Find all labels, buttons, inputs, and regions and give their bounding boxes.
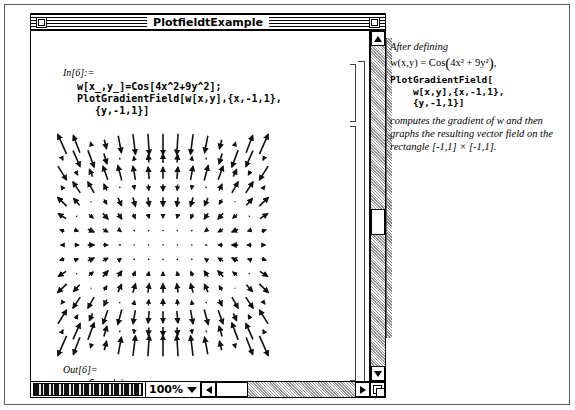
horizontal-scroll-thumb[interactable] [216,382,248,397]
side-panel-explanation: computes the gradient of w and then grap… [390,114,566,153]
scroll-left-arrow-icon[interactable] [201,382,216,397]
horizontal-scrollbar[interactable] [201,382,385,397]
input-cell-code[interactable]: w[x_,y_]=Cos[4x^2+9y^2]; PlotGradientFie… [77,81,282,117]
gradient-vector-field-plot[interactable] [41,129,281,361]
side-panel-intro: After defining [390,40,566,53]
formula-tail: , [494,57,497,68]
cell-bracket-group [349,31,367,381]
resize-grow-icon[interactable] [370,382,385,397]
scroll-right-arrow-icon[interactable] [355,382,370,397]
zoom-level-select[interactable]: 100% [145,382,201,397]
formula-lhs: w(x,y) = Cos [390,57,445,68]
notebook-window: PlotfieldtExample In[6]:= w[x_,y_]=Cos[4… [30,13,386,398]
side-panel-code: PlotGradientField[ w[x,y],{x,-1,1}, {y,-… [390,74,566,109]
vector-field-svg [41,129,281,361]
scroll-up-arrow-icon[interactable] [371,31,385,46]
output-cell-label: Out[6]= [63,364,98,375]
chevron-down-icon[interactable] [187,387,197,393]
input-cell-label: In[6]:= [63,67,94,78]
vertical-scrollbar[interactable] [370,31,385,381]
side-explanation-panel: After defining w(x,y) = Cos(4x² + 9y²), … [390,40,566,156]
zoom-box-icon[interactable] [369,17,380,28]
vertical-scroll-track[interactable] [371,46,385,366]
scroll-down-arrow-icon[interactable] [371,366,385,381]
window-titlebar[interactable]: PlotfieldtExample [31,14,385,31]
window-bottom-bar: 100% [31,381,385,397]
close-box-icon[interactable] [36,17,47,28]
side-panel-formula: w(x,y) = Cos(4x² + 9y²), [390,56,566,70]
notebook-document-area[interactable]: In[6]:= w[x_,y_]=Cos[4x^2+9y^2]; PlotGra… [31,31,370,381]
window-title: PlotfieldtExample [147,16,269,29]
status-strip [33,383,143,396]
zoom-level-value: 100% [149,383,183,396]
cell-bracket-input[interactable] [350,64,356,122]
formula-inner: 4x² + 9y² [450,57,488,68]
vertical-scroll-thumb[interactable] [371,209,385,235]
cell-bracket-outer[interactable] [358,61,365,381]
cell-bracket-output[interactable] [350,126,356,381]
